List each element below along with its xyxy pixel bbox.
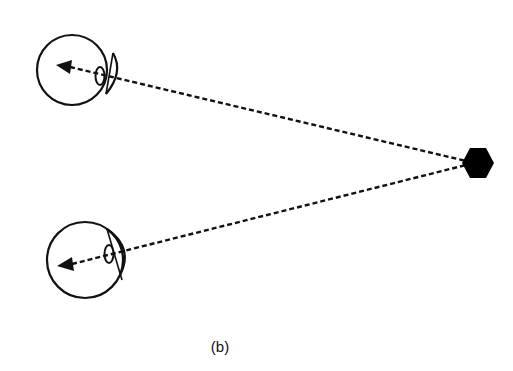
hexagon-object-icon — [462, 148, 494, 178]
bottom-eye — [47, 222, 125, 298]
arrowhead-icon — [56, 60, 72, 74]
diagram-svg — [0, 0, 513, 371]
figure-canvas: (b) — [0, 0, 513, 371]
sight-line-bottom — [72, 165, 466, 264]
sight-line-top — [70, 67, 466, 161]
arrowhead-icon — [57, 257, 74, 271]
top-eye — [37, 35, 117, 105]
figure-caption: (b) — [190, 338, 250, 355]
